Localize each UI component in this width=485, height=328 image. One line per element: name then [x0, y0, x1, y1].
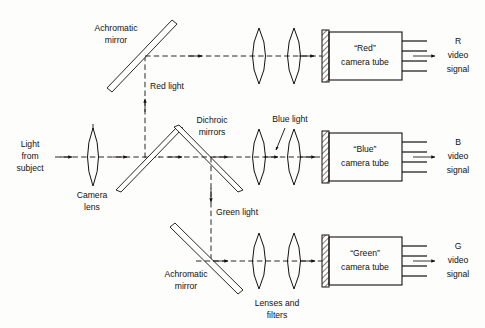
red-tube-label-line1: “Red” — [354, 43, 376, 53]
achromatic-mirror-top-label-line2: mirror — [105, 35, 128, 45]
blue-signal-line2: video — [448, 151, 469, 161]
green-tube-body — [329, 237, 402, 285]
text-label-layer: Achromatic mirror Red light Light from s… — [16, 23, 469, 320]
achromatic-mirror-bottom-label-line1: Achromatic — [165, 269, 209, 279]
blue-tube-label-line2: camera tube — [341, 158, 389, 168]
dichroic-mirror-left — [116, 126, 183, 192]
red-signal-line3: signal — [447, 64, 470, 74]
red-tube-body — [329, 32, 402, 80]
blue-light-leader-arrow — [276, 128, 285, 150]
camera-lens-group — [88, 124, 99, 186]
green-tube-faceplate — [322, 235, 329, 287]
green-signal-line3: signal — [447, 269, 470, 279]
green-tube-label-line2: camera tube — [341, 262, 389, 272]
green-camera-tube-group — [322, 235, 435, 287]
camera-lens-label-line1: Camera — [77, 190, 108, 200]
optical-path-svg: Achromatic mirror Red light Light from s… — [0, 0, 485, 328]
light-from-subject-label-line2: from — [21, 151, 38, 161]
red-camera-tube-group — [322, 30, 435, 82]
blue-signal-letter: B — [455, 137, 461, 147]
light-from-subject-label-line3: subject — [16, 163, 44, 173]
light-from-subject-label-line1: Light — [21, 139, 40, 149]
green-signal-letter: G — [455, 241, 462, 251]
achromatic-mirror-bottom-label-line2: mirror — [175, 281, 198, 291]
blue-light-label: Blue light — [272, 114, 308, 124]
red-light-label: Red light — [150, 81, 185, 91]
blue-tube-body — [329, 133, 402, 181]
blue-tube-label-line1: “Blue” — [354, 144, 377, 154]
lenses-and-filters-label-line1: Lenses and — [255, 298, 300, 308]
dichroic-mirrors-label-line1: Dichroic — [196, 115, 228, 125]
red-signal-letter: R — [455, 36, 461, 46]
lenses-and-filters-label-line2: filters — [267, 310, 288, 320]
optical-diagram: Achromatic mirror Red light Light from s… — [0, 0, 485, 328]
green-signal-line2: video — [448, 255, 469, 265]
achromatic-mirror-top-label-line1: Achromatic — [95, 23, 139, 33]
camera-lens-label-line2: lens — [84, 202, 100, 212]
blue-camera-tube-group — [322, 131, 435, 183]
green-tube-label-line1: “Green” — [350, 248, 380, 258]
dichroic-mirrors-label-line2: mirrors — [199, 127, 226, 137]
red-tube-faceplate — [322, 30, 329, 82]
blue-tube-faceplate — [322, 131, 329, 183]
blue-signal-line3: signal — [447, 165, 470, 175]
red-signal-line2: video — [448, 50, 469, 60]
red-tube-label-line2: camera tube — [341, 57, 389, 67]
green-light-label: Green light — [216, 207, 259, 217]
blue-light-leader-group — [276, 128, 285, 150]
